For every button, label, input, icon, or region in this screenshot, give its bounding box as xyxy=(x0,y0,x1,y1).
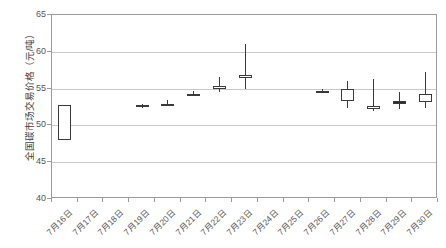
y-axis-tick-label: 45 xyxy=(20,156,46,166)
candle xyxy=(316,15,329,197)
x-axis-tick-mark xyxy=(231,198,232,202)
plot-area xyxy=(51,14,437,198)
candle-body xyxy=(187,94,200,97)
candle-wick xyxy=(425,72,426,109)
candle-body xyxy=(213,86,226,89)
x-axis-tick-mark xyxy=(360,198,361,202)
candle xyxy=(161,15,174,197)
candlestick-chart: 全国碳市场交易价格（元/吨） 404550556065 7月16日7月17日7月… xyxy=(0,0,446,248)
y-axis-tick-label: 50 xyxy=(20,119,46,129)
x-axis-tick-mark xyxy=(257,198,258,202)
candle-body xyxy=(161,104,174,107)
candle-body xyxy=(316,91,329,94)
x-axis-tick-mark xyxy=(51,198,52,202)
candle-wick xyxy=(219,77,220,91)
y-axis-tick-label: 40 xyxy=(20,193,46,203)
candle-body xyxy=(136,105,149,108)
x-axis-tick-mark xyxy=(334,198,335,202)
candle xyxy=(136,15,149,197)
candle-body xyxy=(239,75,252,78)
y-axis-title: 全国碳市场交易价格（元/吨） xyxy=(22,10,36,180)
candle xyxy=(58,15,71,197)
y-axis-tick-label: 55 xyxy=(20,83,46,93)
x-axis-tick-mark xyxy=(180,198,181,202)
x-axis-tick-mark xyxy=(205,198,206,202)
x-axis-tick-mark xyxy=(437,198,438,202)
y-axis-tick-label: 65 xyxy=(20,9,46,19)
candle xyxy=(187,15,200,197)
x-axis-tick-mark xyxy=(128,198,129,202)
candle xyxy=(419,15,432,197)
x-axis-tick-mark xyxy=(102,198,103,202)
x-axis-tick-mark xyxy=(308,198,309,202)
candle-wick xyxy=(245,44,246,89)
candle-body xyxy=(393,101,406,104)
y-axis-tick-label: 60 xyxy=(20,46,46,56)
candle xyxy=(239,15,252,197)
candle-body xyxy=(419,94,432,102)
x-axis-tick-mark xyxy=(283,198,284,202)
candle xyxy=(393,15,406,197)
candle-body xyxy=(58,105,71,140)
candle-body xyxy=(367,106,380,109)
x-axis-tick-mark xyxy=(154,198,155,202)
x-axis-tick-mark xyxy=(77,198,78,202)
candle xyxy=(213,15,226,197)
candle xyxy=(341,15,354,197)
x-axis-tick-mark xyxy=(411,198,412,202)
candle-body xyxy=(341,89,354,102)
x-axis-tick-mark xyxy=(386,198,387,202)
candle xyxy=(367,15,380,197)
